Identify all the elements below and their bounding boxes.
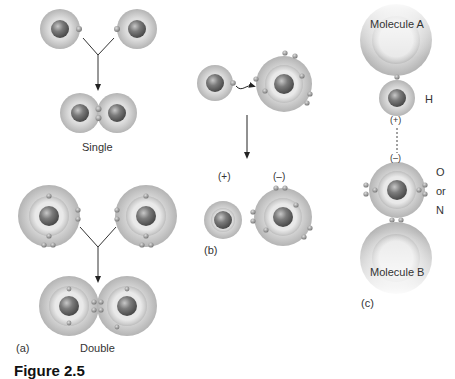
sodium-atom bbox=[197, 65, 236, 101]
molecule-b-fragment bbox=[355, 222, 440, 297]
anion-charge-label: (–) bbox=[273, 171, 285, 182]
single-bond-molecule bbox=[60, 93, 137, 133]
oxygen-atom-left bbox=[18, 185, 81, 248]
acceptor-o-label: O bbox=[436, 166, 445, 178]
electron-transfer-arrow bbox=[236, 86, 253, 89]
oxygen-atom-right bbox=[114, 185, 177, 248]
figure-caption: Figure 2.5 bbox=[14, 362, 85, 379]
double-bond-molecule bbox=[39, 276, 157, 336]
single-bond-label: Single bbox=[82, 141, 113, 153]
panel-a-label: (a) bbox=[16, 342, 29, 354]
ionic-reactants bbox=[197, 50, 313, 112]
molecule-b-label: Molecule B bbox=[370, 266, 424, 278]
hydrogen-atom-c bbox=[379, 80, 415, 116]
panel-b-label: (b) bbox=[204, 244, 217, 256]
single-merge-arrow bbox=[83, 38, 114, 88]
acceptor-or-label: or bbox=[436, 185, 446, 197]
chlorine-atom bbox=[253, 50, 312, 112]
acceptor-atom bbox=[363, 162, 427, 223]
sodium-ion bbox=[204, 201, 242, 239]
double-merge-arrow bbox=[80, 227, 116, 280]
double-bond-reactants bbox=[18, 185, 177, 248]
molecule-a-fragment bbox=[355, 0, 440, 80]
chloride-ion bbox=[250, 185, 312, 246]
partial-negative-label: (–) bbox=[390, 153, 401, 163]
panel-c-label: (c) bbox=[361, 297, 374, 309]
hydrogen-label: H bbox=[425, 93, 433, 105]
cation-charge-label: (+) bbox=[218, 171, 231, 182]
single-bond-reactants bbox=[40, 9, 157, 49]
acceptor-n-label: N bbox=[436, 204, 444, 216]
molecule-a-label: Molecule A bbox=[370, 18, 424, 30]
hydrogen-atom-right bbox=[114, 9, 157, 49]
partial-positive-label: (+) bbox=[390, 115, 401, 125]
ionic-products bbox=[204, 185, 313, 246]
double-bond-label: Double bbox=[80, 342, 115, 354]
hydrogen-atom-left bbox=[40, 9, 82, 49]
